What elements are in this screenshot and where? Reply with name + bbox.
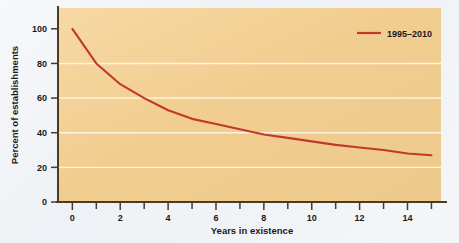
x-axis-ticks	[72, 202, 431, 210]
x-tick-label: 14	[402, 213, 412, 223]
x-axis-tick-labels: 02468101214	[70, 213, 413, 223]
x-tick-label: 10	[307, 213, 317, 223]
x-tick-label: 12	[355, 213, 365, 223]
y-axis-ticks	[51, 29, 58, 202]
y-axis-title: Percent of establishments	[9, 46, 20, 164]
y-axis-tick-labels: 020406080100	[32, 24, 47, 207]
y-tick-label: 0	[42, 197, 47, 207]
y-tick-label: 40	[37, 128, 47, 138]
x-axis-title: Years in existence	[211, 225, 293, 236]
y-tick-label: 100	[32, 24, 47, 34]
y-tick-label: 80	[37, 59, 47, 69]
x-tick-label: 4	[166, 213, 171, 223]
x-tick-label: 0	[70, 213, 75, 223]
legend-label: 1995–2010	[387, 29, 432, 39]
y-tick-label: 60	[37, 93, 47, 103]
x-tick-label: 8	[261, 213, 266, 223]
x-tick-label: 6	[213, 213, 218, 223]
plot-area-background	[58, 8, 441, 202]
y-tick-label: 20	[37, 163, 47, 173]
figure-container: 020406080100 02468101214 Years in existe…	[0, 0, 459, 243]
x-tick-label: 2	[118, 213, 123, 223]
line-chart: 020406080100 02468101214 Years in existe…	[0, 0, 459, 243]
